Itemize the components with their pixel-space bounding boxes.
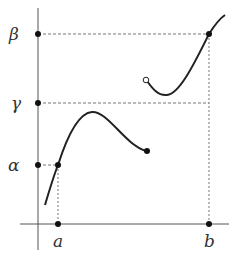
b-point [206, 221, 212, 227]
left-branch-end-point [144, 148, 150, 154]
gamma-point [35, 100, 41, 106]
right-branch-curve [147, 15, 225, 95]
alpha-point [35, 162, 41, 168]
f-b-point [206, 31, 212, 37]
b-label: b [204, 231, 215, 251]
a-label: a [53, 231, 63, 251]
diagram-canvas: β γ α a b [0, 0, 239, 261]
right-branch-open-point [143, 77, 149, 83]
a-point [55, 221, 61, 227]
gamma-label: γ [11, 93, 22, 113]
f-a-point [55, 162, 61, 168]
beta-point [35, 31, 41, 37]
alpha-label: α [8, 155, 20, 175]
beta-label: β [8, 24, 19, 44]
left-branch-curve [45, 112, 146, 205]
